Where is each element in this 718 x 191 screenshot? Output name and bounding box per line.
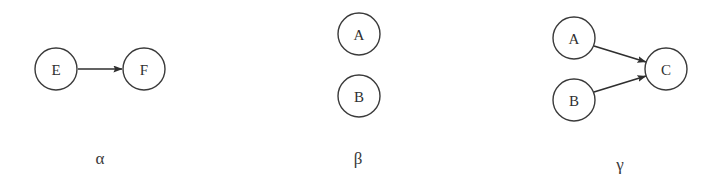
node-c-gamma[interactable]: C [645,48,687,90]
node-label-a-gamma: A [569,31,580,47]
edge-a-to-c [594,46,646,62]
edge-line-a-c [594,46,646,62]
node-a-gamma[interactable]: A [553,17,595,59]
panel-caption-gamma: γ [615,155,624,174]
node-label-b-beta: B [354,89,364,105]
node-b-beta[interactable]: B [338,75,380,117]
panel-beta: A B β [338,13,380,168]
node-label-a-beta: A [354,27,365,43]
node-f[interactable]: F [123,48,165,90]
graph-figure: E F α A B β [0,0,718,191]
edge-b-to-c [594,76,646,92]
node-a-beta[interactable]: A [338,13,380,55]
node-label-b-gamma: B [569,93,579,109]
panel-caption-alpha: α [96,149,105,168]
node-b-gamma[interactable]: B [553,79,595,121]
node-e[interactable]: E [35,48,77,90]
panel-caption-beta: β [354,149,363,168]
node-label-f: F [140,62,148,78]
panel-gamma: A B C γ [553,17,687,174]
panel-alpha: E F α [35,48,165,168]
node-label-e: E [51,62,60,78]
graph-canvas: E F α A B β [0,0,718,191]
node-label-c-gamma: C [661,62,671,78]
edge-line-b-c [594,76,646,92]
